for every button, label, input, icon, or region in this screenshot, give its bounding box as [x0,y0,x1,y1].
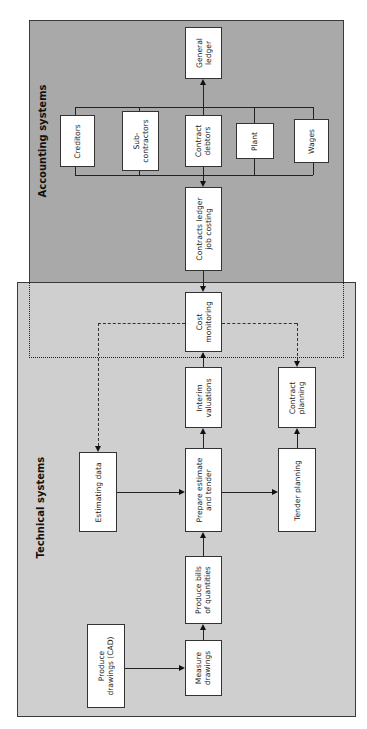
dashed-edge-to-contract-planning [297,323,298,361]
node-plant: Plant [236,123,274,159]
node-label: Wages [307,128,316,153]
arrow-up-icon [200,624,206,630]
arrow-up-icon [200,532,206,538]
edge-interim-cost [203,358,204,367]
node-label: Creditors [73,124,82,159]
arrow-up-icon [200,352,206,358]
node-creditors: Creditors [60,115,95,167]
connector [313,163,314,175]
edge-estimating-prepare [117,492,179,493]
edge-tender-contract [297,434,298,448]
bracket-top-line [75,107,313,108]
edge-measure-bills [203,630,204,640]
connector [75,167,76,175]
dashed-edge-cost-contract [222,323,297,324]
node-label: Produce bills of quantities [195,566,213,614]
connector [139,171,140,175]
edge-drawings-measure [125,668,179,669]
connector [313,107,314,119]
node-contract-planning: Contract planning [278,367,316,428]
arrow-up-icon [200,79,206,85]
dashed-edge-to-estimating [98,323,99,446]
node-produce-drawings: Produce drawings (CAD) [87,624,125,708]
node-tender-planning: Tender planning [278,448,316,532]
node-label: Contract debtors [194,125,212,158]
node-label: Contracts ledger job costing [195,197,213,260]
node-prepare-estimate: Prepare estimate and tender [185,448,222,532]
accounting-systems-title: Accounting systems [37,88,48,198]
node-label: General ledger [195,38,213,68]
node-subcontractors: Sub- contractors [122,111,159,171]
connector [254,107,255,123]
arrow-up-icon [200,428,206,434]
node-label: Plant [250,131,259,150]
edge-contracts-cost [203,271,204,286]
node-label: Produce drawings (CAD) [97,636,115,695]
dashed-edge-cost-estimating [98,323,185,324]
edge-prepare-tender [222,492,272,493]
node-cost-monitoring: Cost monitoring [185,292,222,352]
node-contracts-ledger: Contracts ledger job costing [185,187,222,271]
node-produce-bills: Produce bills of quantities [185,556,222,624]
node-label: Tender planning [293,460,302,521]
edge-bills-prepare [203,538,204,556]
technical-systems-title: Technical systems [35,459,46,559]
connector [75,107,76,115]
node-general-ledger: General ledger [185,27,222,79]
node-wages: Wages [294,119,329,163]
node-label: Interim valuations [195,378,213,417]
node-label: Cost monitoring [195,301,213,342]
bracket-bottom-line [75,175,313,176]
edge-debtors-ledger [203,85,204,115]
node-label: Prepare estimate and tender [195,457,213,522]
edge-debtors-contracts [203,167,204,181]
node-measure-drawings: Measure drawings [185,640,222,696]
arrow-up-icon [294,428,300,434]
node-label: Measure drawings [194,651,212,686]
node-label: Estimating data [94,462,103,522]
node-contract-debtors: Contract debtors [185,115,222,167]
node-interim-valuations: Interim valuations [185,367,222,428]
node-label: Sub- contractors [132,119,150,162]
connector [254,159,255,175]
node-estimating-data: Estimating data [79,452,117,532]
node-label: Contract planning [288,381,306,414]
edge-prepare-interim [203,434,204,448]
